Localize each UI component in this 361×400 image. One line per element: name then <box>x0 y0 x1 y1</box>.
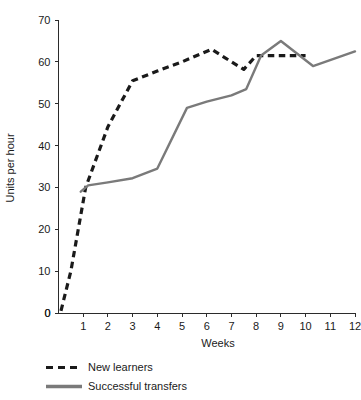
y-axis-ticks <box>55 20 59 313</box>
x-tick-label: 9 <box>278 320 284 332</box>
data-series-group <box>61 41 355 311</box>
line-chart: 010203040506070 0123456789101112 Weeks U… <box>0 0 361 400</box>
legend-item-new-learners: New learners <box>46 361 153 373</box>
legend-label-successful-transfers: Successful transfers <box>88 380 188 392</box>
y-tick-label: 20 <box>38 223 50 235</box>
x-tick-label: 5 <box>179 320 185 332</box>
x-tick-label: 3 <box>130 320 136 332</box>
x-tick-label: 8 <box>253 320 259 332</box>
y-axis-tick-labels: 010203040506070 <box>38 14 50 319</box>
x-tick-label: 11 <box>325 320 336 332</box>
y-tick-label: 60 <box>38 56 50 68</box>
x-tick-label: 1 <box>80 320 86 332</box>
series-line-successful-transfers <box>81 41 355 192</box>
x-tick-label: 4 <box>154 320 160 332</box>
chart-figure: 010203040506070 0123456789101112 Weeks U… <box>0 0 361 400</box>
y-tick-label: 40 <box>38 140 50 152</box>
x-tick-label: 6 <box>204 320 210 332</box>
y-tick-label: 50 <box>38 98 50 110</box>
x-axis-tick-labels: 0123456789101112 <box>44 307 361 332</box>
legend-label-new-learners: New learners <box>88 361 153 373</box>
plot-area: 010203040506070 0123456789101112 <box>38 14 361 332</box>
x-tick-label: 7 <box>228 320 234 332</box>
x-axis-title: Weeks <box>201 337 235 349</box>
x-tick-label: 10 <box>299 320 311 332</box>
y-tick-label: 30 <box>38 181 50 193</box>
y-tick-label: 70 <box>38 14 50 26</box>
legend-item-successful-transfers: Successful transfers <box>46 380 188 392</box>
y-axis-title: Units per hour <box>4 133 16 202</box>
y-tick-label: 10 <box>38 265 50 277</box>
series-line-new-learners <box>61 49 306 311</box>
x-tick-label: 12 <box>349 320 361 332</box>
x-axis-ticks <box>83 313 355 317</box>
legend: New learners Successful transfers <box>46 361 188 392</box>
x-tick-label: 2 <box>105 320 111 332</box>
origin-tick-label: 0 <box>44 307 50 319</box>
